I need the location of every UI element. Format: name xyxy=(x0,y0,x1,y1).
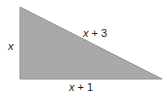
label-base: x + 1 xyxy=(69,82,93,93)
right-triangle xyxy=(20,7,162,79)
label-vertical-side: x xyxy=(8,41,14,52)
label-var: x xyxy=(8,40,14,52)
label-expression: + 3 xyxy=(89,27,108,39)
label-expression: + 1 xyxy=(75,81,94,93)
label-hypotenuse: x + 3 xyxy=(83,28,107,39)
